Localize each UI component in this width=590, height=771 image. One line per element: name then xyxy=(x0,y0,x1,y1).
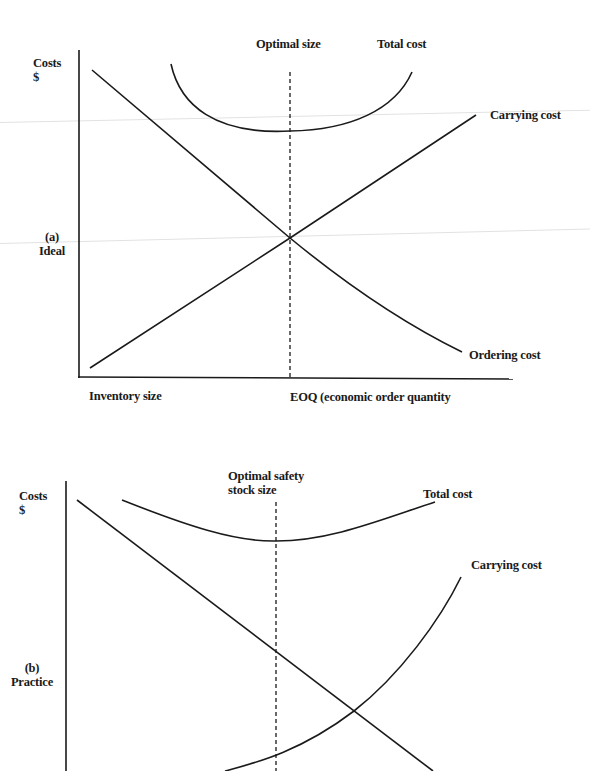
panel-b-carrying-cost-label: Carrying cost xyxy=(471,558,542,572)
panel-a-y-axis-label-line2: $ xyxy=(33,70,61,84)
panel-a-optimal-size-label: Optimal size xyxy=(256,37,321,51)
panel-b-y-axis-label: Costs $ xyxy=(19,489,47,517)
panel-a-carrying-cost-curve xyxy=(90,115,476,368)
panel-a-carrying-cost-label: Carrying cost xyxy=(490,108,561,122)
panel-b-optimal-label-line2: stock size xyxy=(228,483,304,497)
panel-b-side-label: (b) Practice xyxy=(4,661,60,689)
panel-b-total-cost-label: Total cost xyxy=(423,487,472,501)
panel-b-y-axis-label-line2: $ xyxy=(19,503,47,517)
panel-a-ordering-cost-label: Ordering cost xyxy=(469,348,540,362)
panel-b-side-label-line1: (b) xyxy=(4,661,60,675)
panel-a-side-label-line1: (a) xyxy=(34,230,70,244)
panel-a-total-cost-curve xyxy=(171,64,412,131)
panel-b-optimal-safety-stock-label: Optimal safety stock size xyxy=(228,469,304,497)
panel-b-y-axis-label-line1: Costs xyxy=(19,489,47,503)
panel-a-x-axis xyxy=(78,377,513,379)
panel-b-total-cost-curve xyxy=(122,500,435,541)
panel-a-x-axis-left-label: Inventory size xyxy=(89,389,162,403)
panel-a-y-axis-label: Costs $ xyxy=(33,56,61,84)
panel-a-eoq-label: EOQ (economic order quantity xyxy=(290,390,450,404)
panel-a-total-cost-label: Total cost xyxy=(377,37,426,51)
panel-a-y-axis-label-line1: Costs xyxy=(33,56,61,70)
panel-a-ordering-cost-curve xyxy=(92,70,462,352)
panel-b-graphics xyxy=(66,481,461,771)
panel-a-side-label: (a) Ideal xyxy=(34,230,70,258)
panel-b-carrying-cost-curve xyxy=(225,577,461,771)
panel-b-optimal-label-line1: Optimal safety xyxy=(228,469,304,483)
panel-b-side-label-line2: Practice xyxy=(4,675,60,689)
panel-a-graphics xyxy=(78,50,513,379)
panel-a-side-label-line2: Ideal xyxy=(34,244,70,258)
